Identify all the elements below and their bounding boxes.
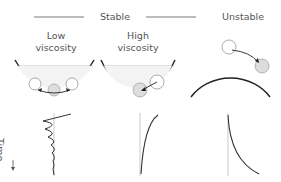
high-viscosity-bowl — [101, 60, 175, 97]
unstable-trace — [228, 113, 259, 176]
low-viscosity-bowl — [15, 60, 94, 96]
high-viscosity-label: High viscosity — [108, 30, 168, 54]
high-viscosity-line1: High — [108, 30, 168, 42]
low-viscosity-trace — [43, 113, 71, 176]
stability-diagram — [0, 0, 281, 182]
unstable-dome — [191, 40, 270, 97]
ball-right-ghost — [66, 78, 78, 90]
high-viscosity-trace — [140, 113, 158, 176]
ball-left-ghost — [29, 78, 41, 90]
low-viscosity-label: Low viscosity — [31, 30, 81, 54]
low-viscosity-line2: viscosity — [31, 42, 81, 54]
ball-center — [48, 84, 60, 96]
roll-away-arrow — [232, 50, 258, 62]
unstable-heading: Unstable — [213, 11, 273, 23]
high-viscosity-line2: viscosity — [108, 42, 168, 54]
time-axis-label: Time — [0, 138, 6, 178]
time-arrow-head — [11, 167, 15, 171]
ball-top-ghost — [222, 40, 236, 54]
low-viscosity-line1: Low — [31, 30, 81, 42]
stable-heading: Stable — [84, 11, 146, 23]
